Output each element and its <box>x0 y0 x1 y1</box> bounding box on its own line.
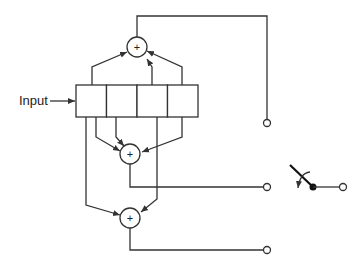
switch-output-terminal <box>340 184 347 191</box>
adder-2: + <box>120 144 140 164</box>
output-3-terminal <box>264 247 271 254</box>
register-stage-4 <box>168 85 199 117</box>
adder-1: + <box>127 37 147 57</box>
svg-text:+: + <box>134 41 140 53</box>
svg-text:+: + <box>127 148 133 160</box>
register-stage-2 <box>107 85 138 117</box>
encoder-diagram: Input + + + <box>0 0 364 264</box>
register-stage-1 <box>76 85 107 117</box>
adder-3: + <box>120 208 140 228</box>
input-label: Input <box>19 93 48 108</box>
output-1-terminal <box>264 120 271 127</box>
output-3-line <box>130 228 263 250</box>
output-2-terminal <box>264 184 271 191</box>
register-stage-3 <box>137 85 168 117</box>
shift-register <box>76 85 198 117</box>
commutator-switch <box>290 165 347 191</box>
adder-2-connections <box>96 117 182 152</box>
svg-text:+: + <box>127 212 133 224</box>
output-2-line <box>130 164 263 187</box>
